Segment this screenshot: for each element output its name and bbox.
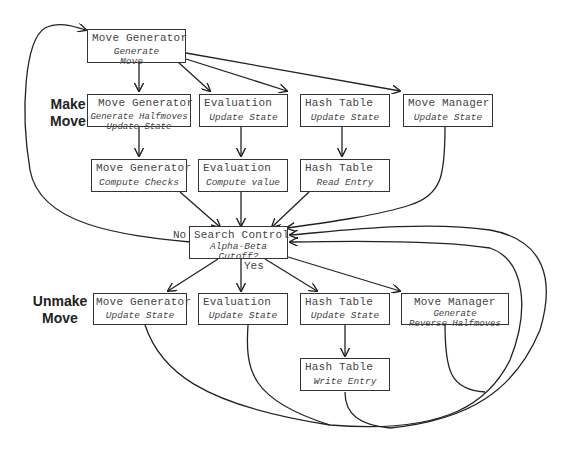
node-make-evaluation: Evaluation Update State [199,94,288,127]
node-make-move-generator: Move Generator Generate Halfmoves Update… [87,94,191,127]
yes-label: Yes [244,260,264,272]
node-write-hash-table: Hash Table Write Entry [300,358,390,391]
node-make-move-manager: Move Manager Update State [403,94,493,127]
node-unmake-hash-table: Hash Table Update State [300,293,390,325]
node-top-move-generator: Move Generator Generate Move [87,29,186,63]
node-read-hash-table: Hash Table Read Entry [300,159,390,192]
unmake-move-label: Unmake Move [22,293,98,327]
node-make-hash-table: Hash Table Update State [300,94,390,127]
node-unmake-evaluation: Evaluation Update State [198,293,288,325]
node-unmake-move-generator: Move Generator Update State [93,293,187,325]
no-label: No [173,229,186,241]
make-move-label: Make Move [46,96,90,130]
node-search-control: Search Control Alpha-Beta Cutoff? [189,226,288,259]
node-unmake-move-manager: Move Manager Generate Reverse Halfmoves [401,293,509,325]
node-value-evaluation: Evaluation Compute value [198,159,288,192]
node-checks-move-generator: Move Generator Compute Checks [91,159,187,192]
